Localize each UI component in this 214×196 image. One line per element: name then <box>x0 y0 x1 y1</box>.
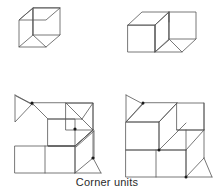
upper-top-face <box>126 103 177 122</box>
wing-hypotenuse <box>126 95 143 104</box>
stacked-lower-row <box>126 150 212 177</box>
upper-center-slope <box>159 103 177 122</box>
mid-diagonal <box>159 123 186 150</box>
stacked-vertex-dots <box>142 102 188 179</box>
panel-stacked-corner-assembly <box>0 0 214 196</box>
upper-left-front-face <box>126 122 159 150</box>
stacked-mid-slope <box>159 123 204 158</box>
upper-right-face <box>177 103 204 130</box>
stacked-left-wing <box>126 95 143 122</box>
figure-caption: Corner units <box>0 175 214 189</box>
vertex-dot <box>158 149 161 152</box>
corner-units-figure: Corner units <box>0 0 214 196</box>
mid-right-slope <box>186 130 204 150</box>
vertex-dot <box>142 102 145 105</box>
